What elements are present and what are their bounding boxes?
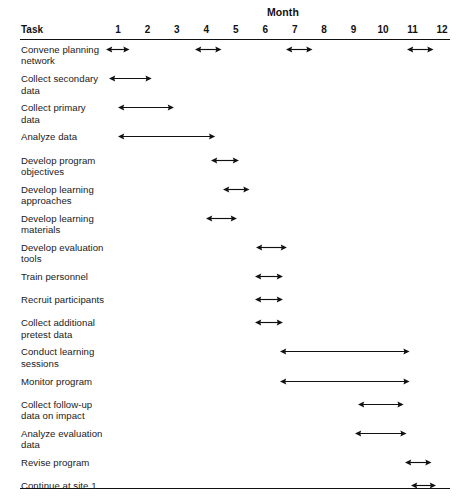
month-tick-label-9: 9 [351, 24, 357, 35]
task-label: Develop learning approaches [21, 184, 94, 207]
month-tick-label-11: 11 [407, 24, 418, 35]
header-divider [20, 39, 450, 41]
task-label: Analyze evaluation data [21, 428, 102, 451]
month-tick-label-6: 6 [262, 24, 268, 35]
task-duration-arrow [118, 132, 215, 141]
month-tick-label-1: 1 [115, 24, 121, 35]
task-duration-arrow [280, 347, 410, 356]
task-duration-arrow [256, 243, 287, 252]
task-duration-arrow [206, 214, 237, 223]
task-duration-arrow [280, 377, 410, 386]
task-duration-arrow [286, 45, 313, 54]
task-label: Train personnel [21, 271, 88, 282]
task-label: Monitor program [21, 376, 92, 387]
task-duration-arrow [109, 74, 152, 83]
task-duration-arrow [195, 45, 222, 54]
task-label: Collect primary data [21, 102, 86, 125]
task-label: Develop learning materials [21, 213, 94, 236]
task-duration-arrow [405, 458, 432, 467]
task-label: Develop program objectives [21, 155, 95, 178]
task-label: Collect follow-up data on impact [21, 399, 92, 422]
task-duration-arrow [255, 295, 283, 304]
task-label: Develop evaluation tools [21, 242, 104, 265]
month-tick-label-10: 10 [377, 24, 388, 35]
task-label: Recruit participants [21, 294, 104, 305]
gantt-chart: MonthTask123456789101112Convene planning… [0, 0, 468, 502]
task-duration-arrow [255, 272, 283, 281]
task-column-header: Task [21, 24, 43, 35]
task-duration-arrow [118, 103, 174, 112]
task-duration-arrow [106, 45, 130, 54]
task-label: Collect additional pretest data [21, 317, 95, 340]
task-label: Convene planning network [21, 44, 99, 67]
task-label: Conduct learning sessions [21, 346, 94, 369]
task-label: Revise program [21, 457, 89, 468]
task-label: Continue at site 1 [21, 480, 97, 491]
task-duration-arrow [255, 318, 283, 327]
month-tick-label-7: 7 [292, 24, 298, 35]
month-tick-label-3: 3 [174, 24, 180, 35]
month-axis-title: Month [267, 6, 299, 18]
month-tick-label-12: 12 [436, 24, 447, 35]
month-tick-label-8: 8 [321, 24, 327, 35]
month-tick-label-5: 5 [233, 24, 239, 35]
task-duration-arrow [355, 429, 407, 438]
task-label: Analyze data [21, 131, 77, 142]
task-duration-arrow [211, 156, 239, 165]
task-duration-arrow [223, 185, 250, 194]
task-duration-arrow [358, 400, 404, 409]
month-tick-label-4: 4 [204, 24, 210, 35]
task-label: Collect secondary data [21, 73, 98, 96]
month-tick-label-2: 2 [145, 24, 151, 35]
task-duration-arrow [407, 45, 434, 54]
